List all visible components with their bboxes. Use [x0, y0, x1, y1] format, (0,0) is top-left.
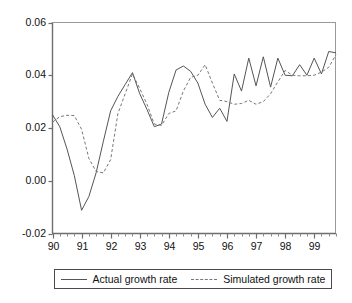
y-tick-label: 0.00: [0, 174, 46, 186]
plot-area: [0, 0, 352, 303]
x-tick-label: 92: [98, 240, 126, 252]
solid-line-swatch: [61, 276, 87, 283]
x-tick-label: 98: [272, 240, 300, 252]
series-line-simulated-growth-rate: [53, 55, 337, 173]
x-tick-label: 94: [156, 240, 184, 252]
dashed-line-swatch: [191, 276, 217, 283]
x-tick-label: 96: [214, 240, 242, 252]
x-tick-label: 90: [40, 240, 68, 252]
legend-entry-actual-growth-rate: Actual growth rate: [61, 273, 178, 285]
y-tick-label: -0.02: [0, 227, 46, 239]
x-tick-label: 93: [127, 240, 155, 252]
legend-label-simulated-growth-rate: Simulated growth rate: [223, 273, 325, 285]
chart-legend: Actual growth rate Simulated growth rate: [54, 269, 332, 289]
y-tick-label: 0.04: [0, 68, 46, 80]
x-tick-label: 97: [243, 240, 271, 252]
y-tick-label: 0.02: [0, 121, 46, 133]
chart-figure: 0.060.040.020.00-0.02 909192939495969798…: [0, 0, 352, 303]
legend-label-actual-growth-rate: Actual growth rate: [93, 273, 178, 285]
x-tick-label: 91: [69, 240, 97, 252]
legend-entry-simulated-growth-rate: Simulated growth rate: [191, 273, 325, 285]
x-tick-label: 99: [301, 240, 329, 252]
y-tick-label: 0.06: [0, 16, 46, 28]
x-tick-label: 95: [185, 240, 213, 252]
